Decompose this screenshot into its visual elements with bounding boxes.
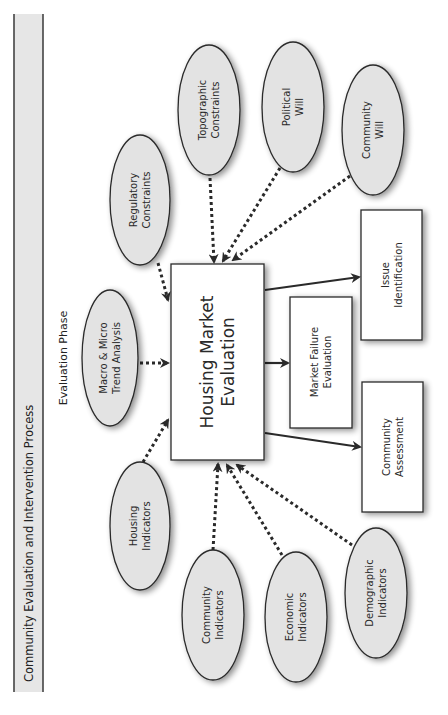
svg-text:Identification: Identification xyxy=(393,242,404,308)
svg-text:Regulatory: Regulatory xyxy=(128,173,139,227)
input-node-topographic: Topographic Constraints xyxy=(178,45,240,175)
arrow-regulatory xyxy=(158,263,168,300)
svg-text:Indicators: Indicators xyxy=(141,501,152,550)
arrow-issue xyxy=(265,277,359,290)
central-node-housing-market-evaluation: Housing Market Evaluation xyxy=(171,264,264,460)
svg-text:Indicators: Indicators xyxy=(297,592,308,641)
input-node-macro-micro: Macro & Micro Trend Analysis xyxy=(82,290,138,426)
diagram-canvas: Community Evaluation and Intervention Pr… xyxy=(0,0,448,715)
svg-text:Housing: Housing xyxy=(128,506,139,547)
arrow-community-will xyxy=(233,176,350,260)
svg-text:Community: Community xyxy=(361,101,372,159)
svg-text:Issue: Issue xyxy=(380,262,391,288)
svg-text:Market Failure: Market Failure xyxy=(309,327,320,397)
svg-text:Evaluation: Evaluation xyxy=(322,336,333,389)
output-node-community-assessment: Community Assessment xyxy=(362,382,423,512)
svg-text:Constraints: Constraints xyxy=(141,171,152,228)
svg-text:Constraints: Constraints xyxy=(210,81,221,138)
output-node-market-failure-evaluation: Market Failure Evaluation xyxy=(290,297,352,428)
arrow-topographic xyxy=(210,178,214,262)
svg-text:Macro & Micro: Macro & Micro xyxy=(98,322,109,393)
arrow-housing xyxy=(143,420,168,462)
input-node-political: Political Will xyxy=(262,42,324,172)
svg-text:Topographic: Topographic xyxy=(197,80,208,142)
svg-text:Demographic: Demographic xyxy=(364,559,375,626)
input-node-community-will: Community Will xyxy=(342,65,404,195)
svg-text:Will: Will xyxy=(374,121,385,139)
input-node-demographic: Demographic Indicators xyxy=(345,528,407,658)
header-title: Community Evaluation and Intervention Pr… xyxy=(22,405,36,682)
svg-text:Indicators: Indicators xyxy=(214,590,225,639)
input-node-economic: Economic Indicators xyxy=(265,552,327,682)
output-node-issue-identification: Issue Identification xyxy=(361,210,422,340)
svg-text:Indicators: Indicators xyxy=(377,568,388,617)
header-bar: Community Evaluation and Intervention Pr… xyxy=(14,14,43,692)
svg-text:Assessment: Assessment xyxy=(394,417,405,477)
arrow-community-ind xyxy=(213,464,218,550)
svg-text:Political: Political xyxy=(281,88,292,126)
input-node-community-indicators: Community Indicators xyxy=(182,550,244,680)
arrow-economic xyxy=(227,465,282,555)
input-node-regulatory: Regulatory Constraints xyxy=(110,135,170,265)
arrow-community-assessment xyxy=(265,433,360,447)
svg-text:Community: Community xyxy=(201,586,212,644)
svg-text:Evaluation: Evaluation xyxy=(218,317,238,407)
svg-text:Community: Community xyxy=(381,418,392,476)
input-node-housing: Housing Indicators xyxy=(110,462,170,590)
arrow-demographic xyxy=(237,465,352,545)
svg-text:Trend Analysis: Trend Analysis xyxy=(111,322,122,395)
svg-text:Economic: Economic xyxy=(284,593,295,641)
svg-text:Housing Market: Housing Market xyxy=(197,295,217,428)
phase-label: Evaluation Phase xyxy=(57,311,70,406)
svg-text:Will: Will xyxy=(294,98,305,116)
